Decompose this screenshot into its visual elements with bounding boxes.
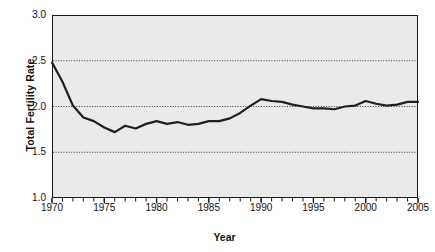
- y-axis-tick-label: 1.5: [16, 146, 46, 157]
- plot-area: [52, 15, 418, 198]
- x-axis-tick-label: 1970: [41, 202, 63, 213]
- x-axis-tick-label: 1995: [302, 202, 324, 213]
- x-axis-tick-label: 1985: [198, 202, 220, 213]
- y-axis-tick-label: 2.5: [16, 55, 46, 66]
- y-axis-tick-label: 2.0: [16, 101, 46, 112]
- x-axis-title: Year: [199, 231, 235, 243]
- x-axis-minor-ticks: [52, 198, 418, 202]
- y-axis-tick-label: 3.0: [16, 9, 46, 20]
- x-axis-tick-label: 2005: [407, 202, 429, 213]
- x-axis-tick-label: 2000: [355, 202, 377, 213]
- x-axis-title-container: Year: [0, 231, 435, 243]
- y-axis-tick-labels: 1.01.52.02.53.0: [14, 0, 46, 252]
- x-axis-tick-label: 1980: [145, 202, 167, 213]
- x-axis-tick-label: 1975: [93, 202, 115, 213]
- chart-figure: Total Fertility Rate 1.01.52.02.53.0 197…: [0, 0, 435, 252]
- x-axis-tick-label: 1990: [250, 202, 272, 213]
